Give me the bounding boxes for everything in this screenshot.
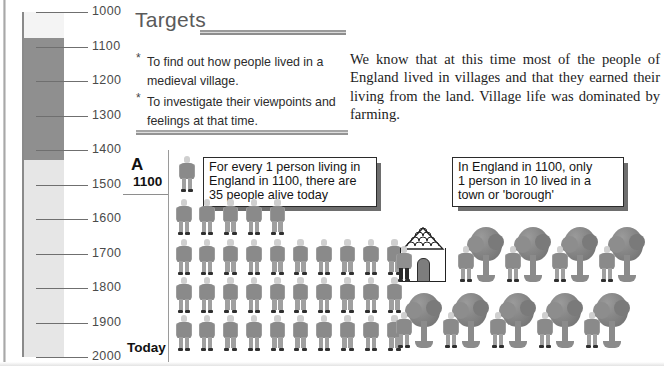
person-leg-left [602, 268, 607, 279]
person-foot-right [185, 348, 190, 351]
villager-figure [580, 311, 602, 348]
person-leg-left [202, 299, 207, 310]
person-leg-left [342, 299, 347, 310]
person-leg-right [208, 299, 213, 310]
callout-line: For every 1 person living in [209, 161, 371, 175]
activity-divider-horizontal [123, 194, 169, 195]
century-timeline: 1000110012001300140015001600170018001900… [22, 12, 64, 357]
person-head [181, 315, 188, 322]
person-leg-left [272, 299, 277, 310]
person-foot-right [608, 279, 613, 282]
person-foot-left [248, 348, 253, 351]
callout-line: In England in 1100, only [458, 161, 618, 175]
person-body [317, 284, 331, 300]
timeline-segment-medieval-highlight [22, 38, 64, 160]
pictogram-row [172, 198, 406, 236]
person-body [200, 284, 214, 300]
person-foot-left [365, 310, 370, 313]
person-leg-right [467, 268, 472, 279]
person-foot-left [271, 272, 276, 275]
person-leg-left [461, 268, 466, 279]
person-head [251, 239, 258, 246]
person-figure-icon [172, 238, 195, 276]
person-foot-right [208, 272, 213, 275]
person-foot-left [294, 272, 299, 275]
person-leg-right [608, 268, 613, 279]
person-leg-left [446, 334, 451, 345]
villager-figure [392, 311, 414, 348]
person-foot-left [201, 272, 206, 275]
person-foot-left [224, 348, 229, 351]
timeline-tick-label: 1100 [92, 39, 120, 53]
village-row [392, 288, 642, 348]
person-figure-icon [219, 314, 242, 352]
person-foot-right [302, 310, 307, 313]
person-leg-right [278, 299, 283, 310]
person-foot-left [248, 310, 253, 313]
person-foot-right [372, 348, 377, 351]
person-leg-right [546, 334, 551, 345]
timeline-tick [36, 357, 88, 358]
person-body [177, 206, 191, 222]
person-foot-left [318, 348, 323, 351]
person-body [506, 253, 520, 269]
timeline-tick [36, 12, 88, 13]
person-leg-left [179, 299, 184, 310]
timeline-tick [36, 81, 88, 82]
person-leg-left [366, 337, 371, 348]
person-foot-right [405, 279, 410, 282]
person-body [177, 322, 191, 338]
targets-section-rule [136, 130, 348, 135]
person-leg-right [325, 299, 330, 310]
person-head [181, 239, 188, 246]
person-leg-left [508, 268, 513, 279]
person-figure-icon [359, 314, 382, 352]
person-figure-icon [336, 314, 359, 352]
activity-year-label: 1100 [133, 174, 162, 189]
person-body [200, 206, 214, 222]
person-leg-right [348, 299, 353, 310]
person-foot-left [294, 310, 299, 313]
person-body [341, 284, 355, 300]
callout-town-population: In England in 1100, only 1 person in 10 … [452, 157, 624, 207]
pictogram-people-today [172, 198, 406, 352]
person-foot-right [499, 345, 504, 348]
person-foot-right [325, 310, 330, 313]
person-leg-left [202, 337, 207, 348]
person-foot-right [452, 345, 457, 348]
activity-today-label: Today [127, 340, 166, 355]
village-unit-countryside [595, 222, 642, 282]
person-body [294, 284, 308, 300]
person-foot-left [445, 345, 450, 348]
person-head [274, 277, 281, 284]
person-leg-left [366, 261, 371, 272]
worksheet-page: 1000110012001300140015001600170018001900… [0, 0, 664, 366]
person-head [344, 239, 351, 246]
person-head [401, 312, 408, 319]
person-body [177, 246, 191, 262]
person-figure-icon [172, 198, 195, 236]
person-body [553, 253, 567, 269]
village-unit-countryside [454, 222, 501, 282]
person-foot-right [467, 279, 472, 282]
person-figure-icon [219, 238, 242, 276]
target-item: * To find out how people lived in a medi… [136, 52, 336, 89]
bullet-star-icon: * [136, 91, 141, 105]
person-leg-right [231, 299, 236, 310]
target-item-text: To find out how people lived in a mediev… [147, 55, 323, 88]
person-body [585, 319, 599, 335]
villager-figure [439, 311, 461, 348]
person-leg-left [587, 334, 592, 345]
person-leg-left [225, 221, 230, 232]
timeline-tick-label: 1800 [92, 280, 121, 294]
person-leg-right [452, 334, 457, 345]
person-foot-right [546, 345, 551, 348]
person-figure-icon [359, 276, 382, 314]
person-foot-right [185, 232, 190, 235]
person-foot-right [255, 232, 260, 235]
timeline-tick [36, 185, 88, 186]
person-leg-right [348, 261, 353, 272]
person-figure-icon [242, 276, 265, 314]
person-body [247, 206, 261, 222]
person-body [341, 246, 355, 262]
